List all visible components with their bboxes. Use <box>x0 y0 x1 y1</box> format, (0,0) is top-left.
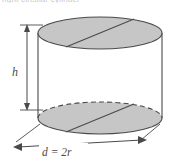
cylinder-figure: right circular cylinder h <box>0 0 173 166</box>
cylinder-diagram-svg: h d = 2r <box>0 0 173 166</box>
diameter-label: d = 2r <box>42 146 72 158</box>
diameter-arrow-right <box>138 136 147 144</box>
diameter-left-leader <box>16 124 40 142</box>
diameter-arrow-left <box>13 143 22 151</box>
height-label: h <box>12 65 18 79</box>
